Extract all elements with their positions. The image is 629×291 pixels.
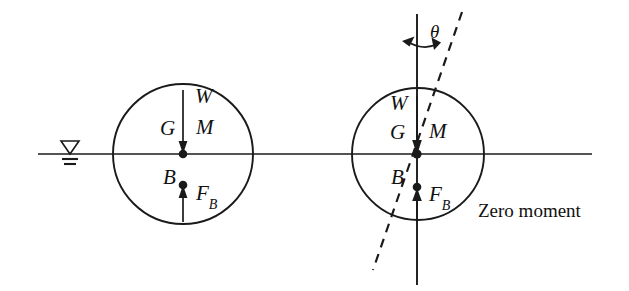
heel-angle-label: θ xyxy=(430,22,439,41)
upright-buoyant-force-label: FB xyxy=(196,183,217,208)
upright-center-of-buoyancy-label: B xyxy=(163,167,176,188)
heeled-center-of-gravity-point xyxy=(412,149,421,158)
upright-buoyancy-arrow xyxy=(179,185,188,222)
heeled-weight-arrow xyxy=(412,96,422,155)
heeled-buoyancy-arrow xyxy=(412,188,422,222)
heeled-buoyant-force-label: FB xyxy=(429,184,450,209)
zero-moment-caption: Zero moment xyxy=(478,201,581,220)
heeled-center-of-gravity-label: G xyxy=(390,122,405,143)
diagram-canvas xyxy=(0,0,629,291)
heeled-body-group xyxy=(352,12,484,285)
stability-diagram: W G M B FB θ W G M B FB Zero moment xyxy=(0,0,629,291)
upright-center-of-gravity-point xyxy=(179,150,188,159)
heeled-buoyant-force-subscript: B xyxy=(442,198,451,213)
upright-buoyant-force-subscript: B xyxy=(209,197,218,212)
heeled-center-of-buoyancy-point xyxy=(413,183,422,192)
upright-buoyant-force-symbol: F xyxy=(196,181,209,205)
heeled-center-of-buoyancy-label: B xyxy=(391,167,404,188)
upright-weight-label: W xyxy=(195,86,213,107)
upright-weight-arrow xyxy=(179,90,188,154)
upright-center-of-gravity-label: G xyxy=(160,118,175,139)
heeled-weight-label: W xyxy=(390,93,408,114)
upright-center-of-buoyancy-point xyxy=(179,181,188,190)
water-surface-level-symbol xyxy=(61,141,79,164)
heeled-buoyant-force-symbol: F xyxy=(429,182,442,206)
upright-metacenter-label: M xyxy=(196,117,214,138)
heeled-metacenter-label: M xyxy=(429,121,447,142)
